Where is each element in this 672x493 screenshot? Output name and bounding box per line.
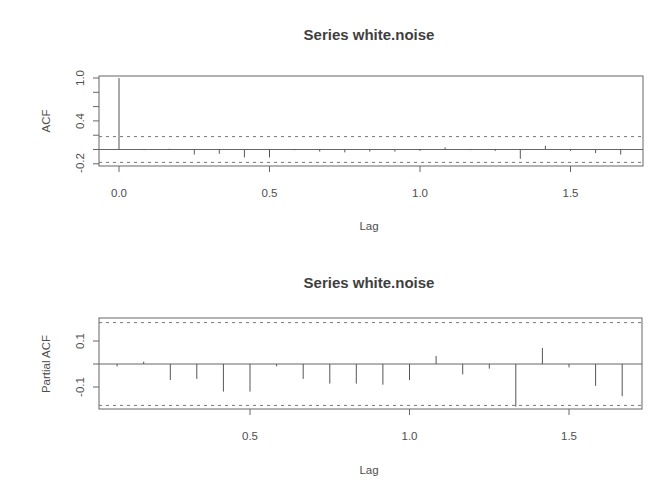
pacf-xtick-label: 1.5 xyxy=(561,430,577,442)
acf-y-axis xyxy=(93,78,99,164)
acf-ytick-label: -0.2 xyxy=(74,153,86,173)
figure: Series white.noise 1.0 0.4 -0.2 ACF 0.0 … xyxy=(0,0,672,493)
acf-xtick-label: 0.5 xyxy=(262,187,278,199)
acf-stems xyxy=(119,78,621,159)
acf-xtick-label: 0.0 xyxy=(111,187,127,199)
acf-plot: Series white.noise 1.0 0.4 -0.2 ACF 0.0 … xyxy=(40,26,643,232)
acf-x-axis xyxy=(119,166,571,172)
pacf-x-axis-label: Lag xyxy=(359,464,378,476)
pacf-title: Series white.noise xyxy=(304,274,435,291)
pacf-ytick-label: -0.1 xyxy=(74,377,86,397)
pacf-plot: Series white.noise 0.1 -0.1 Partial ACF … xyxy=(40,274,642,476)
acf-ytick-label: 0.4 xyxy=(74,112,86,129)
pacf-ytick-label: 0.1 xyxy=(74,333,86,349)
acf-xtick-label: 1.0 xyxy=(412,187,428,199)
pacf-x-axis xyxy=(250,409,569,415)
acf-title: Series white.noise xyxy=(304,26,435,43)
acf-x-axis-label: Lag xyxy=(359,220,378,232)
acf-plot-frame xyxy=(99,76,643,166)
pacf-y-axis-label: Partial ACF xyxy=(40,335,52,393)
pacf-xtick-label: 1.0 xyxy=(402,430,418,442)
acf-xtick-label: 1.5 xyxy=(563,187,579,199)
pacf-y-axis xyxy=(93,341,99,387)
pacf-stems xyxy=(117,348,622,407)
pacf-xtick-label: 0.5 xyxy=(242,430,258,442)
acf-y-axis-label: ACF xyxy=(40,110,52,133)
acf-ytick-label: 1.0 xyxy=(74,70,86,86)
